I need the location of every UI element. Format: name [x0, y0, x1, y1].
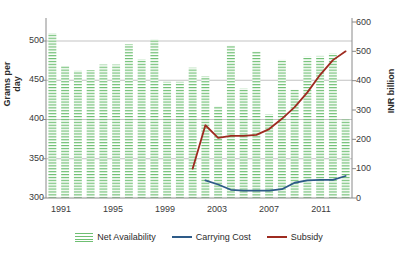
bar — [278, 60, 286, 198]
bar — [240, 88, 248, 198]
line-carrying-cost — [205, 176, 345, 191]
bar — [87, 70, 95, 198]
legend-item-carrying-cost[interactable]: Carrying Cost — [172, 232, 251, 242]
bar — [150, 39, 158, 198]
bar — [163, 82, 171, 198]
bar — [61, 66, 69, 198]
bar — [125, 44, 133, 198]
bar — [48, 33, 56, 198]
legend-label-net-availability: Net Availability — [97, 232, 155, 242]
chart-container: Grams per day INR billion 500 450 400 35… — [0, 0, 398, 258]
bar — [74, 71, 82, 198]
bar — [189, 68, 197, 198]
bar — [176, 82, 184, 198]
plot-area — [0, 0, 398, 258]
legend-item-net-availability[interactable]: Net Availability — [75, 232, 155, 242]
legend-swatch-icon-net-availability — [75, 233, 93, 242]
bar — [342, 120, 350, 199]
chart-legend: Net Availability Carrying Cost Subsidy — [0, 232, 398, 242]
bar — [227, 46, 235, 198]
legend-item-subsidy[interactable]: Subsidy — [267, 232, 323, 242]
legend-swatch-icon-subsidy — [267, 236, 287, 238]
bar-series-net-availability — [48, 33, 349, 198]
bar — [303, 57, 311, 198]
bar — [252, 51, 260, 198]
legend-swatch-icon-carrying-cost — [172, 236, 192, 238]
bar — [99, 65, 107, 198]
legend-label-carrying-cost: Carrying Cost — [196, 232, 251, 242]
legend-label-subsidy: Subsidy — [291, 232, 323, 242]
bar — [138, 59, 146, 198]
bar — [329, 54, 337, 198]
bar — [112, 65, 120, 198]
